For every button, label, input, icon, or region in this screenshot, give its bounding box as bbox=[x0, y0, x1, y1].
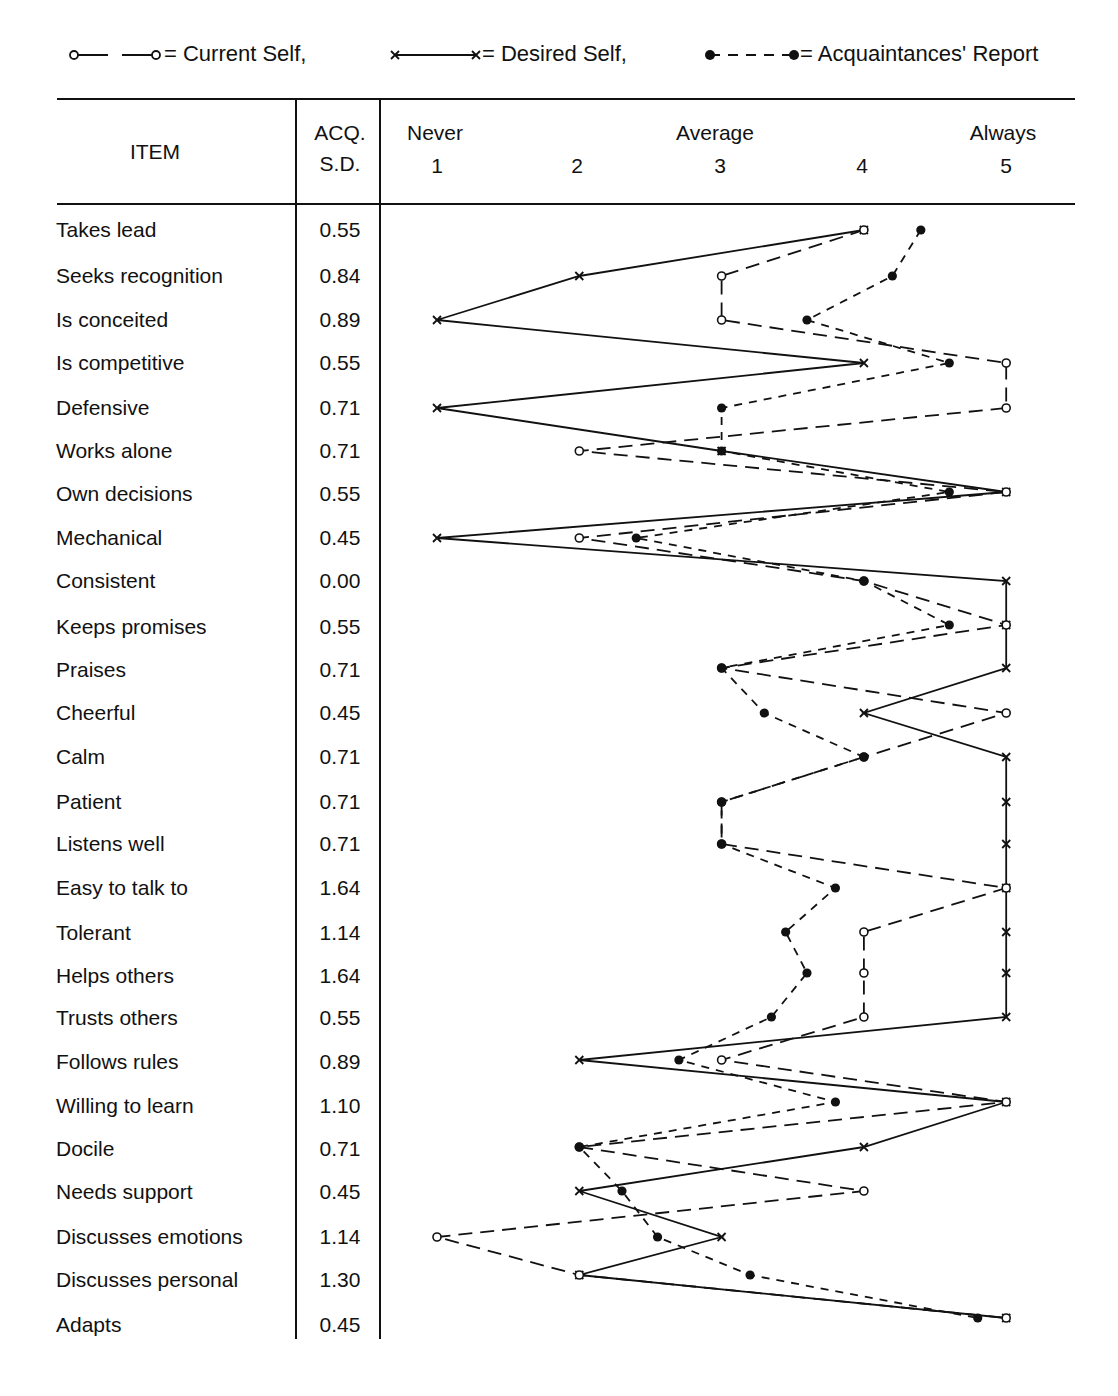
open-circle-marker bbox=[860, 1187, 868, 1195]
open-circle-marker bbox=[1002, 709, 1010, 717]
open-circle-marker bbox=[1002, 621, 1010, 629]
open-circle-marker bbox=[718, 272, 726, 280]
filled-circle-marker bbox=[653, 1232, 662, 1241]
filled-circle-marker bbox=[945, 358, 954, 367]
open-circle-marker bbox=[860, 226, 868, 234]
filled-circle-marker bbox=[717, 663, 726, 672]
filled-circle-marker bbox=[802, 968, 811, 977]
filled-circle-marker bbox=[717, 446, 726, 455]
filled-circle-marker bbox=[717, 797, 726, 806]
open-circle-marker bbox=[718, 316, 726, 324]
filled-circle-marker bbox=[575, 1142, 584, 1151]
filled-circle-marker bbox=[760, 708, 769, 717]
filled-circle-marker bbox=[717, 403, 726, 412]
profile-plot bbox=[0, 0, 1118, 1396]
filled-circle-marker bbox=[973, 1313, 982, 1322]
filled-circle-marker bbox=[617, 1186, 626, 1195]
filled-circle-marker bbox=[888, 271, 897, 280]
open-circle-marker bbox=[575, 447, 583, 455]
filled-circle-marker bbox=[767, 1012, 776, 1021]
open-circle-marker bbox=[1002, 359, 1010, 367]
open-circle-marker bbox=[1002, 1314, 1010, 1322]
desired-self-line bbox=[437, 230, 1006, 1318]
open-circle-marker bbox=[860, 969, 868, 977]
open-circle-marker bbox=[718, 1056, 726, 1064]
open-circle-marker bbox=[575, 534, 583, 542]
filled-circle-marker bbox=[781, 927, 790, 936]
filled-circle-marker bbox=[802, 315, 811, 324]
filled-circle-marker bbox=[945, 620, 954, 629]
open-circle-marker bbox=[860, 1013, 868, 1021]
open-circle-marker bbox=[1002, 1098, 1010, 1106]
filled-circle-marker bbox=[831, 1097, 840, 1106]
filled-circle-marker bbox=[916, 225, 925, 234]
filled-circle-marker bbox=[745, 1270, 754, 1279]
open-circle-marker bbox=[575, 1271, 583, 1279]
filled-circle-marker bbox=[945, 487, 954, 496]
filled-circle-marker bbox=[632, 533, 641, 542]
filled-circle-marker bbox=[674, 1055, 683, 1064]
open-circle-marker bbox=[1002, 884, 1010, 892]
open-circle-marker bbox=[1002, 404, 1010, 412]
open-circle-marker bbox=[433, 1233, 441, 1241]
open-circle-marker bbox=[1002, 488, 1010, 496]
acquaintances-report-line bbox=[579, 230, 977, 1318]
filled-circle-marker bbox=[717, 839, 726, 848]
filled-circle-marker bbox=[859, 752, 868, 761]
current-self-line bbox=[437, 230, 1006, 1318]
open-circle-marker bbox=[860, 928, 868, 936]
filled-circle-marker bbox=[831, 883, 840, 892]
filled-circle-marker bbox=[859, 576, 868, 585]
